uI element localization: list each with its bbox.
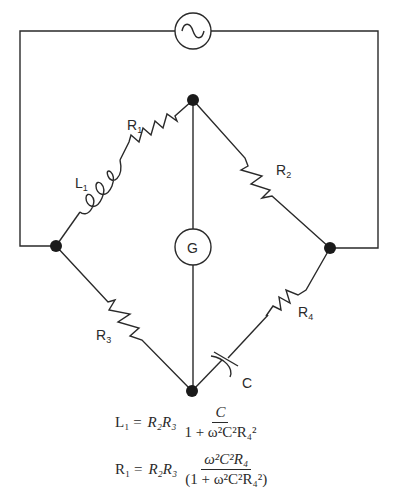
equation-l1-factor: R₂R₃ [148, 414, 177, 431]
r4-label: R4 [298, 304, 313, 322]
capacitor-icon [192, 315, 268, 391]
g-label: G [187, 240, 198, 256]
r3-resistor-icon [56, 246, 192, 391]
supply-wire [20, 31, 378, 248]
equation-l1-lhs: L₁ = [115, 414, 142, 431]
equation-l1-fraction: C 1 + ω²C²R₄² [181, 404, 259, 441]
equation-l1-denominator: 1 + ω²C²R₄² [181, 423, 259, 441]
equation-l1-numerator: C [212, 404, 228, 423]
left-node [50, 240, 62, 252]
top-node [187, 94, 199, 106]
equation-r1-numerator: ω²C²R₄ [201, 451, 251, 470]
equation-r1-denominator: (1 + ω²C²R₄²) [182, 470, 270, 488]
right-node [324, 242, 336, 254]
l1-inductor-icon [56, 160, 121, 246]
r2-label: R2 [276, 162, 291, 180]
bottom-node [186, 385, 198, 397]
equation-r1: R₁ = R₂R₃ ω²C²R₄ (1 + ω²C²R₄²) [115, 451, 270, 488]
r3-label: R3 [96, 327, 111, 345]
c-label: C [242, 375, 252, 391]
r2-resistor-icon [193, 100, 330, 248]
equation-r1-lhs: R₁ = [115, 461, 142, 478]
ac-source-icon [175, 13, 211, 49]
l1-label: L1 [75, 175, 88, 193]
equation-l1: L₁ = R₂R₃ C 1 + ω²C²R₄² [115, 404, 259, 441]
equation-r1-fraction: ω²C²R₄ (1 + ω²C²R₄²) [182, 451, 270, 488]
r1-label: R1 [127, 117, 142, 135]
equation-r1-factor: R₂R₃ [148, 461, 177, 478]
